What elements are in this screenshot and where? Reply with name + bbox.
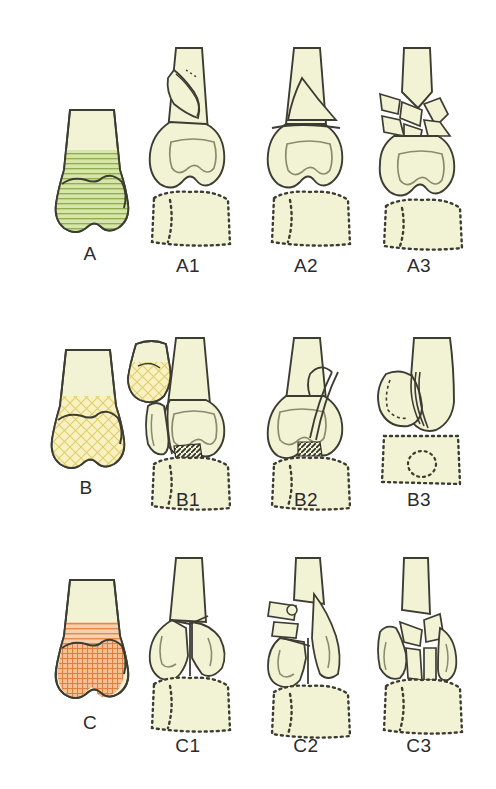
illustration-body	[42, 48, 462, 738]
yellow-shaded-zone-B	[42, 396, 142, 482]
row-C-group	[46, 558, 462, 738]
green-shaded-zone-A	[46, 150, 146, 246]
group-label-C: C	[48, 712, 132, 734]
panel-A3-art	[380, 48, 462, 250]
fracture-classification-illustration	[0, 0, 496, 789]
group-label-B: B	[44, 477, 128, 499]
reference-bone-C	[46, 580, 146, 710]
panel-label-A3: A3	[376, 255, 462, 277]
panel-B2-art	[268, 338, 350, 510]
group-label-A: A	[48, 243, 132, 265]
panel-C3-art	[378, 558, 462, 734]
panel-label-C3: C3	[376, 735, 462, 757]
panel-A1-art	[150, 48, 230, 246]
panel-A2-art	[268, 48, 350, 246]
panel-label-A1: A1	[145, 255, 231, 277]
reference-bone-A	[46, 110, 146, 246]
panel-C2-art	[268, 558, 350, 738]
panel-label-B2: B2	[263, 489, 349, 511]
panel-label-A2: A2	[263, 255, 349, 277]
panel-label-B1: B1	[145, 489, 231, 511]
distal-humerus-fracture-classification-figure: A A1 A2 A3 B B1 B2 B3 C C1 C2 C3	[0, 0, 496, 789]
row-A-group	[46, 48, 462, 250]
panel-C1-art	[150, 558, 230, 732]
panel-label-C1: C1	[145, 735, 231, 757]
panel-label-C2: C2	[263, 735, 349, 757]
panel-label-B3: B3	[376, 489, 462, 511]
panel-B3-art	[378, 338, 460, 484]
